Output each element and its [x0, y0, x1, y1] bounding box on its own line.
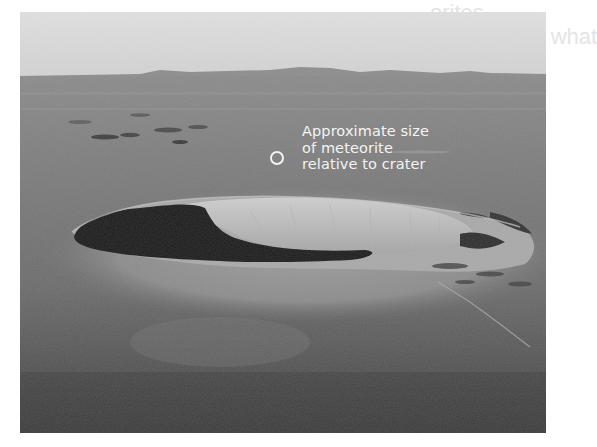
annotation-line-3: relative to crater	[302, 156, 429, 173]
crater-photo-graphic	[20, 12, 546, 433]
annotation-line-1: Approximate size	[302, 123, 429, 140]
meteorite-size-annotation: Approximate size of meteorite relative t…	[302, 123, 429, 173]
annotation-line-2: of meteorite	[302, 140, 429, 157]
meteorite-size-marker-icon	[270, 151, 284, 165]
crater-photo: Approximate size of meteorite relative t…	[20, 12, 546, 433]
